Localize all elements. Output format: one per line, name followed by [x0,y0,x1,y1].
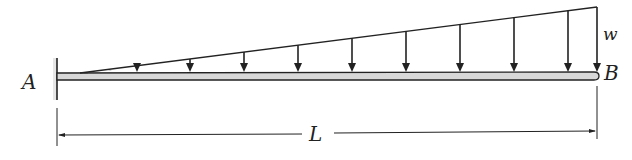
load-envelope-line [80,7,597,73]
cantilever-beam-diagram: A B w L [0,0,632,160]
label-fixed-end-a: A [20,70,36,94]
load-arrowhead-icon [564,63,572,72]
beam [57,72,599,80]
load-arrowhead-icon [593,63,601,72]
dimension-line-left [59,134,302,135]
load-arrowhead-icon [510,63,518,72]
load-arrowhead-icon [240,63,248,72]
dimension-arrowhead-left [58,133,65,137]
label-load-w: w [603,24,618,44]
load-arrowhead-icon [348,63,356,72]
label-free-end-b: B [603,61,619,85]
load-arrowhead-icon [402,63,410,72]
dimension-line-right [334,131,595,133]
load-arrowhead-icon [294,63,302,72]
load-arrowhead-icon [133,63,141,72]
dimension-arrowhead-right [589,129,596,133]
load-arrowhead-icon [186,63,194,72]
load-arrowhead-icon [456,63,464,72]
label-length-l: L [308,122,322,146]
